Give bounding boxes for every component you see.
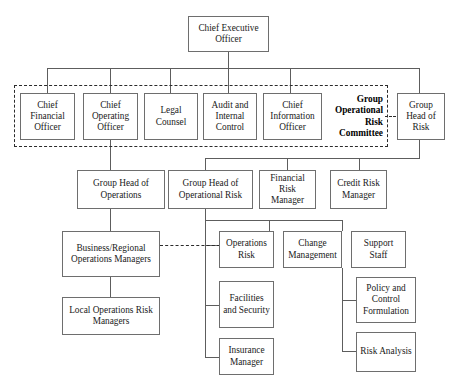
connector-support-spine: [342, 268, 343, 352]
connector-drop-group-head-risk: [419, 68, 420, 93]
node-group-head-of-operational-risk[interactable]: Group Head of Operational Risk: [168, 170, 253, 209]
node-audit-and-internal-control[interactable]: Audit and Internal Control: [203, 93, 257, 140]
node-facilities-and-security[interactable]: Facilities and Security: [219, 281, 274, 328]
node-group-head-of-risk[interactable]: Group Head of Risk: [397, 93, 445, 140]
connector-drop-credit-risk: [359, 158, 360, 170]
connector-stub-facilities: [205, 305, 219, 306]
node-group-head-of-operations[interactable]: Group Head of Operations: [77, 170, 165, 209]
connector-risk-bus: [205, 158, 420, 159]
node-credit-risk-manager[interactable]: Credit Risk Manager: [330, 170, 387, 209]
node-chief-information-officer[interactable]: Chief Information Officer: [263, 93, 322, 140]
connector-stub-insurance: [205, 357, 219, 358]
node-legal-counsel[interactable]: Legal Counsel: [144, 93, 198, 140]
node-change-management[interactable]: Change Management: [283, 231, 342, 268]
node-local-operations-risk-managers[interactable]: Local Operations Risk Managers: [62, 297, 160, 335]
node-risk-analysis[interactable]: Risk Analysis: [356, 332, 416, 372]
connector-drop-support-staff: [342, 220, 343, 231]
connector-op-risk-bus: [205, 220, 342, 221]
connector-risk-stem: [419, 140, 420, 159]
connector-stub-risk-analysis: [342, 351, 356, 352]
connector-stub-policy: [342, 300, 356, 301]
node-chief-financial-officer[interactable]: Chief Financial Officer: [20, 93, 75, 140]
connector-ops-to-biz: [110, 209, 111, 231]
node-chief-operating-officer[interactable]: Chief Operating Officer: [83, 93, 138, 140]
connector-op-risk-spine: [205, 220, 206, 358]
org-chart: Chief Executive Officer Chief Financial …: [0, 0, 453, 380]
node-chief-executive-officer[interactable]: Chief Executive Officer: [188, 16, 269, 52]
node-operations-risk[interactable]: Operations Risk: [219, 231, 274, 268]
connector-ceo-stem: [228, 52, 229, 69]
node-group-operational-risk-committee[interactable]: Group Operational Risk Committee: [326, 93, 383, 140]
node-support-staff[interactable]: Support Staff: [351, 231, 406, 268]
node-business-regional-operations-managers[interactable]: Business/Regional Operations Managers: [62, 231, 160, 277]
connector-biz-to-local: [110, 277, 111, 297]
connector-biz-to-ops-risk: [160, 245, 220, 246]
connector-main-bus: [47, 68, 419, 69]
node-financial-risk-manager[interactable]: Financial Risk Manager: [259, 170, 316, 209]
connector-drop-financial-risk: [287, 158, 288, 170]
node-insurance-manager[interactable]: Insurance Manager: [219, 338, 274, 375]
node-policy-and-control-formulation[interactable]: Policy and Control Formulation: [356, 277, 416, 323]
connector-drop-group-head-op-risk: [205, 158, 206, 170]
connector-drop-change-mgmt: [269, 220, 270, 231]
